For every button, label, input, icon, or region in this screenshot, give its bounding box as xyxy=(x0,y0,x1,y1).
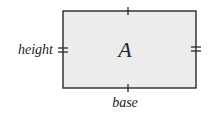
height-label: height xyxy=(18,42,54,57)
rectangle-area-diagram: A height base xyxy=(0,0,208,114)
base-label: base xyxy=(112,95,138,110)
area-label: A xyxy=(116,37,132,62)
